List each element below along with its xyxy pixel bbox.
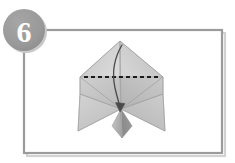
origami-step-illustration: 6 (0, 0, 235, 163)
step-number-label: 6 (17, 15, 32, 48)
step-number-badge: 6 (3, 9, 47, 53)
diagram-canvas: 6 (0, 0, 235, 163)
